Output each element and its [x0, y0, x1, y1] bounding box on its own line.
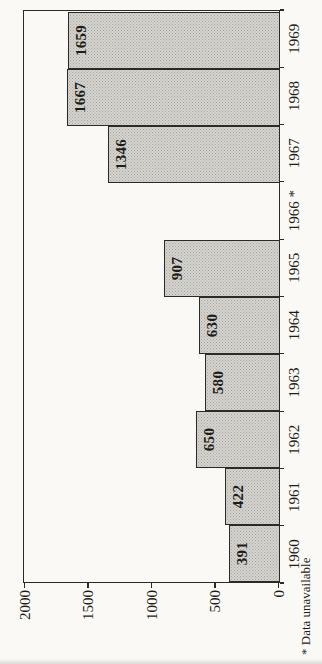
chart-canvas: 391422650580630907134616671659 * Data un…	[0, 0, 322, 664]
value-tick-label-0: 0	[271, 590, 287, 664]
scanned-chart-page: 391422650580630907134616671659 * Data un…	[0, 0, 322, 664]
bar-value-label: 630	[204, 298, 221, 353]
y-tick-mark	[24, 583, 25, 588]
y-tick-mark	[151, 583, 152, 588]
value-tick-label-2000: 2000	[17, 590, 33, 664]
x-tick-mark	[280, 181, 284, 182]
bar-value-label: 391	[234, 526, 251, 581]
x-tick-mark	[280, 9, 284, 10]
bar-1968: 1667	[67, 69, 279, 126]
x-tick-mark	[280, 582, 284, 583]
bar-1963: 580	[205, 354, 279, 411]
plot-area: 391422650580630907134616671659	[23, 10, 280, 583]
value-tick-label-1500: 1500	[80, 590, 96, 664]
value-tick-label-500: 500	[207, 590, 223, 664]
bar-1960: 391	[229, 525, 279, 582]
bar-value-label: 907	[169, 241, 186, 296]
x-tick-mark	[280, 353, 284, 354]
bar-value-label: 1667	[72, 70, 89, 125]
x-tick-mark	[280, 67, 284, 68]
year-tick-label-1969: 1969	[286, 0, 302, 77]
y-tick-mark	[214, 583, 215, 588]
x-tick-mark	[280, 239, 284, 240]
x-tick-mark	[280, 468, 284, 469]
bar-value-label: 1659	[73, 13, 90, 68]
x-tick-mark	[280, 411, 284, 412]
x-tick-mark	[280, 296, 284, 297]
value-tick-label-1000: 1000	[144, 590, 160, 664]
bar-1961: 422	[225, 468, 279, 525]
bar-value-label: 580	[210, 355, 227, 410]
x-tick-mark	[280, 124, 284, 125]
bar-1969: 1659	[68, 12, 279, 69]
bar-1967: 1346	[108, 126, 279, 183]
bar-1965: 907	[164, 240, 279, 297]
bar-value-label: 650	[201, 412, 218, 467]
bar-1962: 650	[196, 411, 279, 468]
bar-value-label: 422	[230, 469, 247, 524]
x-tick-mark	[280, 525, 284, 526]
bar-value-label: 1346	[113, 127, 130, 182]
y-tick-mark	[87, 583, 88, 588]
y-tick-mark	[278, 583, 279, 588]
bar-1964: 630	[199, 297, 279, 354]
